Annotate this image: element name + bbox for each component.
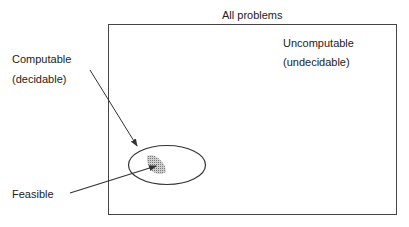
feasible-label: Feasible	[12, 187, 54, 201]
undecidable-label: (undecidable)	[283, 55, 350, 69]
all-problems-box	[109, 25, 397, 215]
diagram-canvas	[0, 0, 409, 227]
computable-ellipse	[129, 146, 206, 185]
feasible-arrow	[70, 166, 156, 193]
uncomputable-label: Uncomputable	[283, 36, 354, 50]
feasible-region	[147, 155, 166, 174]
decidable-label: (decidable)	[12, 72, 66, 86]
computable-label: Computable	[12, 52, 71, 66]
all-problems-label: All problems	[222, 8, 283, 22]
computable-arrow	[90, 70, 137, 146]
